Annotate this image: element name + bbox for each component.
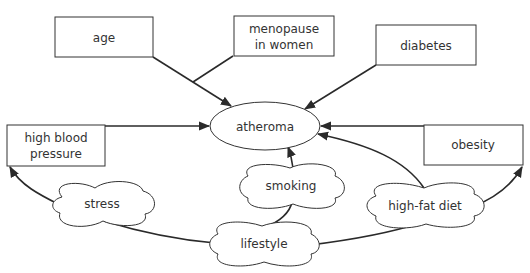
atheroma-label: atheroma [236, 120, 294, 134]
factor-obesity: obesity [424, 125, 523, 165]
factor-diabetes: diabetes [376, 25, 476, 65]
node-stress: stress [53, 182, 155, 227]
high-fat-diet-label: high-fat diet [388, 199, 462, 213]
menopause-label-line2: in women [255, 38, 314, 52]
smoking-label: smoking [266, 179, 317, 193]
high-blood-pressure-label-line2: pressure [30, 147, 82, 161]
atheroma-risk-diagram: age menopause in women diabetes high blo… [0, 0, 530, 273]
node-atheroma: atheroma [210, 102, 320, 150]
edge-smoking-to-atheroma [288, 147, 293, 168]
factor-high-blood-pressure: high blood pressure [7, 125, 105, 166]
edge-stress-to-high-blood-pressure [10, 167, 60, 205]
factor-menopause: menopause in women [234, 16, 334, 56]
node-lifestyle: lifestyle [210, 222, 320, 266]
lifestyle-label: lifestyle [240, 237, 287, 251]
node-smoking: smoking [240, 164, 345, 209]
menopause-label-line1: menopause [249, 22, 319, 36]
node-high-fat-diet: high-fat diet [367, 183, 484, 228]
obesity-label: obesity [451, 138, 495, 152]
edge-menopause-to-atheroma [193, 56, 233, 82]
edge-diabetes-to-atheroma [305, 65, 376, 109]
factor-age: age [55, 17, 153, 57]
age-label: age [93, 31, 115, 45]
diabetes-label: diabetes [400, 39, 452, 53]
high-blood-pressure-label-line1: high blood [24, 131, 87, 145]
stress-label: stress [84, 197, 120, 211]
